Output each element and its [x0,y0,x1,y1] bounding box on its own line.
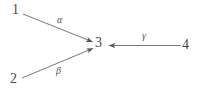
edge-label-gamma: γ [142,31,146,41]
edge-label-alpha: α [57,15,62,25]
diagram-canvas: 1 2 3 4 α β γ [0,0,199,90]
node-label-4: 4 [182,38,189,52]
node-label-2: 2 [10,72,17,86]
node-label-3: 3 [95,36,102,50]
edge-label-beta: β [56,66,61,76]
node-label-1: 1 [12,3,19,17]
